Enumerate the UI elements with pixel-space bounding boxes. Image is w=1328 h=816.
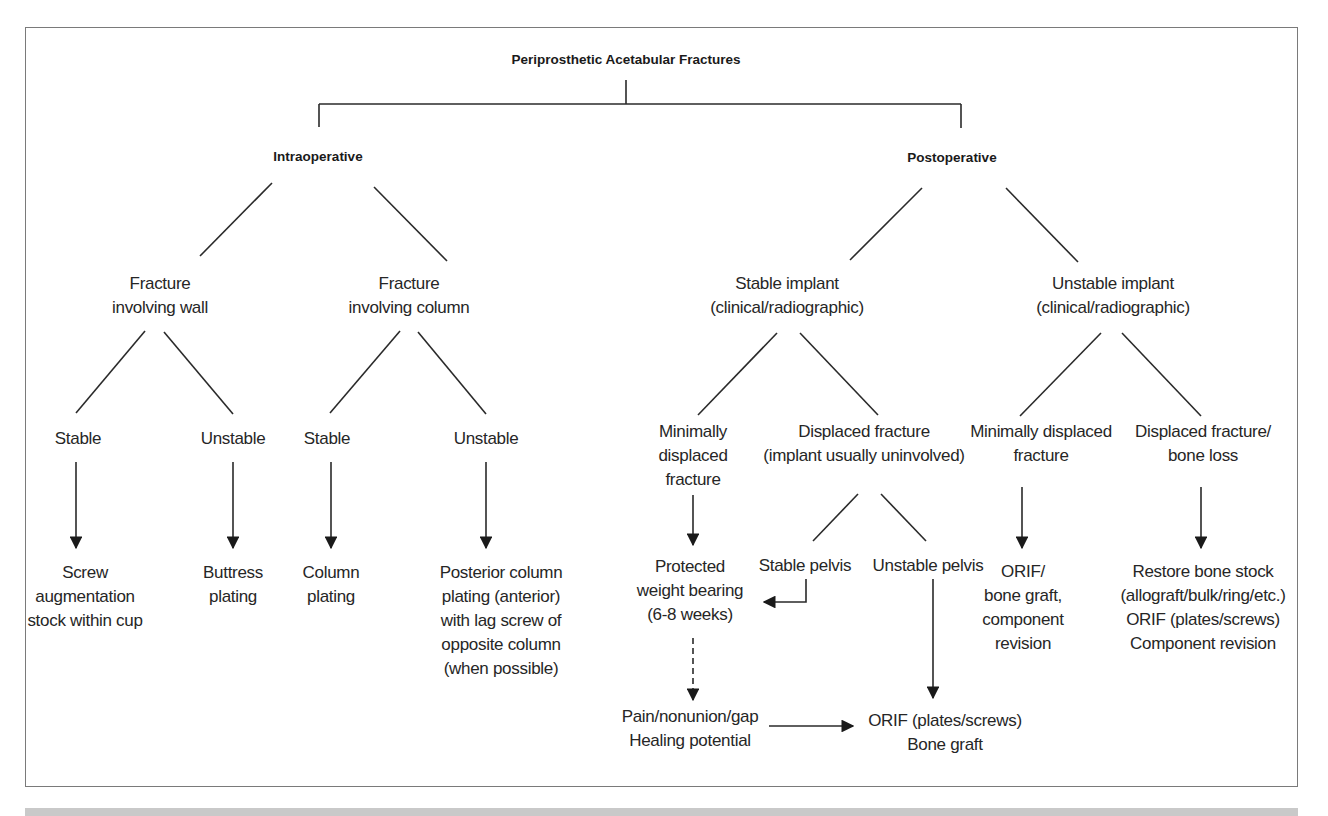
unstable-minimally-displaced-node: Minimally displaced fracture xyxy=(970,420,1112,468)
orif-component-revision-node: ORIF/ bone graft, component revision xyxy=(982,560,1063,656)
protected-weight-bearing-node: Protected weight bearing (6-8 weeks) xyxy=(637,555,743,627)
wall-unstable-node: Unstable xyxy=(201,427,266,451)
postoperative-node: Postoperative xyxy=(907,149,996,167)
orif-bone-graft-node: ORIF (plates/screws) Bone graft xyxy=(868,709,1022,757)
wall-stable-node: Stable xyxy=(55,427,101,451)
displaced-fracture-node: Displaced fracture (implant usually unin… xyxy=(763,420,964,468)
minimally-displaced-node: Minimally displaced fracture xyxy=(658,420,727,492)
root-title: Periprosthetic Acetabular Fractures xyxy=(511,51,740,69)
unstable-pelvis-node: Unstable pelvis xyxy=(873,554,984,578)
unstable-displaced-node: Displaced fracture/ bone loss xyxy=(1135,420,1271,468)
fracture-wall-node: Fracture involving wall xyxy=(112,272,208,320)
stable-pelvis-node: Stable pelvis xyxy=(759,554,852,578)
column-unstable-node: Unstable xyxy=(454,427,519,451)
intraoperative-node: Intraoperative xyxy=(273,148,362,166)
restore-bone-stock-node: Restore bone stock (allograft/bulk/ring/… xyxy=(1120,560,1285,656)
posterior-column-plating-node: Posterior column plating (anterior) with… xyxy=(440,561,563,681)
connector-lines xyxy=(0,0,1328,816)
column-plating-node: Column plating xyxy=(303,561,360,609)
buttress-plating-node: Buttress plating xyxy=(203,561,263,609)
unstable-implant-node: Unstable implant (clinical/radiographic) xyxy=(1036,272,1190,320)
fracture-column-node: Fracture involving column xyxy=(349,272,470,320)
stable-implant-node: Stable implant (clinical/radiographic) xyxy=(710,272,864,320)
column-stable-node: Stable xyxy=(304,427,350,451)
pain-nonunion-node: Pain/nonunion/gap Healing potential xyxy=(622,705,759,753)
screw-augmentation-node: Screw augmentation stock within cup xyxy=(27,561,142,633)
